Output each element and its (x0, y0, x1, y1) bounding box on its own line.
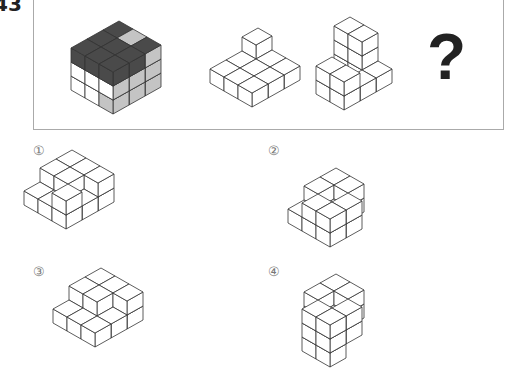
piece-a (210, 28, 300, 107)
puzzle-figures (0, 0, 512, 370)
option-3[interactable] (53, 268, 143, 347)
option-4[interactable] (302, 274, 364, 367)
full-cube (71, 21, 161, 114)
option-1[interactable] (24, 150, 114, 229)
piece-b (316, 17, 392, 110)
option-2[interactable] (288, 168, 364, 247)
